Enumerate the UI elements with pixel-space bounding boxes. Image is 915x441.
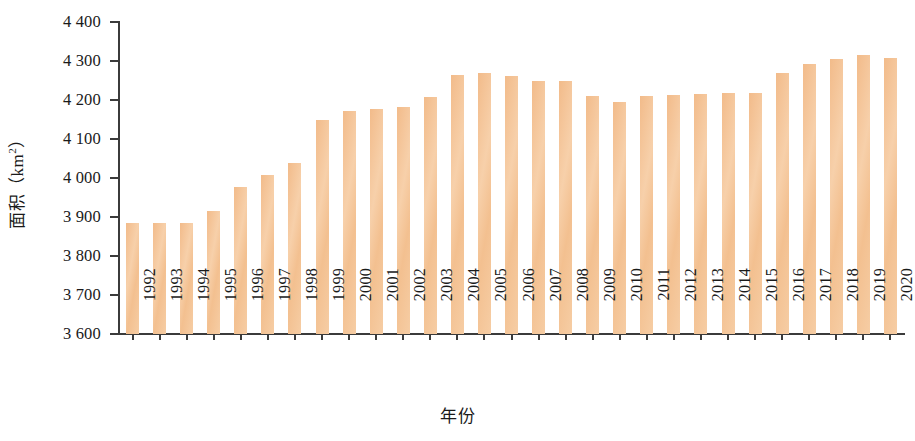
x-tick	[592, 335, 594, 340]
x-tick-label: 2011	[655, 268, 673, 344]
x-tick	[321, 335, 323, 340]
x-tick-label: 2007	[547, 268, 565, 344]
x-tick-label: 1998	[303, 268, 321, 344]
x-tick-label: 2008	[574, 268, 592, 344]
x-tick-label: 2000	[357, 268, 375, 344]
x-tick	[781, 335, 783, 340]
y-tick-label: 3 900	[63, 207, 110, 227]
x-axis-title: 年份	[0, 402, 915, 427]
y-tick-label: 4 300	[63, 51, 110, 71]
y-axis-title-tail: ）	[8, 130, 27, 148]
x-tick	[213, 335, 215, 340]
y-tick-label: 4 100	[63, 129, 110, 149]
x-tick-label: 2020	[898, 268, 915, 344]
y-tick: 3 800	[110, 255, 118, 257]
x-tick	[646, 335, 648, 340]
x-tick	[835, 335, 837, 340]
y-tick-label: 3 800	[63, 246, 110, 266]
y-tick-label: 4 000	[63, 168, 110, 188]
y-axis-title-exponent: 2	[6, 148, 18, 154]
x-tick-label: 2015	[763, 268, 781, 344]
y-tick: 3 700	[110, 294, 118, 296]
y-tick-label: 4 200	[63, 90, 110, 110]
x-tick-label: 1997	[276, 268, 294, 344]
x-tick-label: 2003	[438, 268, 456, 344]
x-tick	[267, 335, 269, 340]
y-tick: 4 400	[110, 21, 118, 23]
x-tick	[754, 335, 756, 340]
x-tick-label: 1992	[141, 268, 159, 344]
x-tick-label: 1995	[222, 268, 240, 344]
y-tick: 4 300	[110, 60, 118, 62]
bar-chart: 面积（km2） 4 4004 3004 2004 1004 0003 9003 …	[0, 0, 915, 441]
x-tick	[429, 335, 431, 340]
y-axis-title: 面积（km2）	[4, 24, 32, 335]
x-tick	[375, 335, 377, 340]
x-tick	[348, 335, 350, 340]
y-tick: 4 100	[110, 138, 118, 140]
y-axis-title-main: 面积（km	[8, 154, 27, 229]
x-tick-label: 2006	[520, 268, 538, 344]
y-tick: 4 200	[110, 99, 118, 101]
bar	[126, 223, 139, 334]
x-tick	[673, 335, 675, 340]
x-tick	[402, 335, 404, 340]
x-tick	[132, 335, 134, 340]
x-tick-label: 2009	[601, 268, 619, 344]
x-tick-label: 2016	[790, 268, 808, 344]
x-tick-label: 2010	[628, 268, 646, 344]
x-tick	[700, 335, 702, 340]
y-tick: 4 000	[110, 177, 118, 179]
x-tick	[619, 335, 621, 340]
x-tick-label: 2018	[844, 268, 862, 344]
x-tick	[240, 335, 242, 340]
x-tick	[862, 335, 864, 340]
x-tick-label: 2002	[411, 268, 429, 344]
y-tick-label: 3 700	[63, 285, 110, 305]
x-tick-label: 1996	[249, 268, 267, 344]
x-tick	[456, 335, 458, 340]
x-tick-label: 2005	[492, 268, 510, 344]
x-tick-label: 2019	[871, 268, 889, 344]
y-tick-label: 4 400	[63, 12, 110, 32]
x-tick	[889, 335, 891, 340]
x-tick-label: 1999	[330, 268, 348, 344]
x-tick-label: 2012	[682, 268, 700, 344]
y-tick-label: 3 600	[63, 324, 110, 344]
x-tick-label: 2017	[817, 268, 835, 344]
x-tick	[727, 335, 729, 340]
x-tick	[511, 335, 513, 340]
x-tick	[294, 335, 296, 340]
x-tick	[808, 335, 810, 340]
y-tick: 3 600	[110, 333, 118, 335]
x-tick-label: 1994	[195, 268, 213, 344]
x-tick-label: 2014	[736, 268, 754, 344]
x-tick-label: 2013	[709, 268, 727, 344]
x-tick	[483, 335, 485, 340]
x-tick-label: 2001	[384, 268, 402, 344]
y-tick: 3 900	[110, 216, 118, 218]
x-tick-label: 2004	[465, 268, 483, 344]
x-tick-label: 1993	[168, 268, 186, 344]
